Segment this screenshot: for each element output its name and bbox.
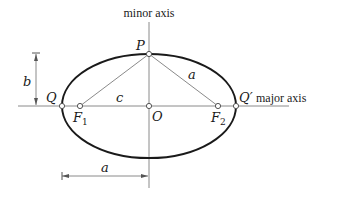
label-o: O bbox=[152, 109, 163, 124]
svg-text:2: 2 bbox=[220, 117, 226, 127]
line-f1-p bbox=[80, 54, 149, 106]
label-f1: F 1 bbox=[72, 110, 88, 127]
label-c: c bbox=[116, 90, 124, 105]
label-a-slant: a bbox=[188, 67, 196, 82]
label-p: P bbox=[135, 38, 145, 53]
point-o bbox=[146, 103, 151, 108]
svg-text:1: 1 bbox=[82, 117, 88, 127]
label-f2: F 2 bbox=[210, 110, 226, 127]
point-q-prime bbox=[233, 103, 238, 108]
major-axis-label: major axis bbox=[256, 91, 307, 105]
label-a-dimension: a bbox=[101, 160, 109, 175]
minor-axis-label: minor axis bbox=[124, 6, 175, 20]
label-q: Q bbox=[46, 90, 57, 105]
point-q bbox=[59, 103, 64, 108]
label-q-prime: Q′ bbox=[239, 90, 253, 105]
b-dimension-arrow bbox=[32, 53, 40, 105]
ellipse-diagram: minor axis major axis P Q Q′ O F 1 F 2 b… bbox=[0, 0, 340, 201]
point-f2 bbox=[215, 103, 220, 108]
point-f1 bbox=[77, 103, 82, 108]
point-p bbox=[146, 51, 151, 56]
line-p-f2 bbox=[149, 54, 218, 106]
label-b: b bbox=[23, 74, 31, 89]
